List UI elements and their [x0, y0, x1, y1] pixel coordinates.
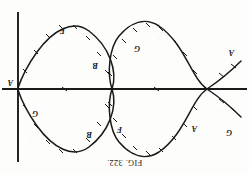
rotated-plate-content: G A F B G A G B F A FIG. 322. [0, 0, 249, 174]
figure-caption: FIG. 322. [0, 158, 249, 168]
label-b-upper-right: B [87, 130, 92, 138]
label-g-upper-far: G [32, 109, 38, 117]
label-g-upper-left: G [226, 128, 232, 136]
label-a-terminal: A [8, 78, 13, 86]
label-a-lower-left: A [229, 48, 234, 56]
label-f-upper-mid: F [117, 125, 122, 133]
label-f-lower-far: F [60, 26, 65, 34]
wave-diagram [0, 0, 249, 174]
label-a-upper-left: A [192, 124, 197, 132]
sine-curve-phase-a [18, 26, 241, 156]
label-g-lower-mid: G [134, 44, 140, 52]
figure-plate: G A F B G A G B F A FIG. 322. [0, 0, 249, 174]
label-b-lower-right: B [93, 61, 98, 69]
sine-curve-phase-b [18, 21, 241, 151]
